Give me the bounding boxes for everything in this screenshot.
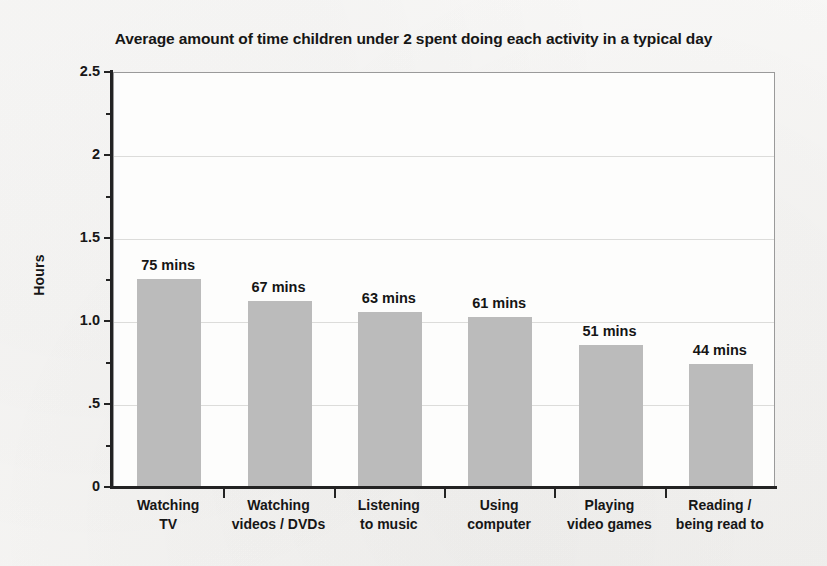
chart-title: Average amount of time children under 2 …	[0, 30, 827, 48]
bar-value-label: 61 mins	[439, 295, 559, 311]
gridline	[114, 322, 774, 323]
y-axis-tick	[104, 486, 113, 488]
x-axis-category-label-line: being read to	[665, 515, 775, 534]
x-axis-category-label-line: Watching	[113, 496, 223, 515]
bar	[358, 312, 422, 486]
x-axis-category-label-line: TV	[113, 515, 223, 534]
y-axis-tick	[106, 196, 113, 198]
y-axis-tick-label: 2.5	[48, 63, 100, 79]
bar-value-label: 67 mins	[219, 279, 339, 295]
gridline	[114, 156, 774, 157]
x-axis-category-label: Reading /being read to	[665, 496, 775, 534]
x-axis-category-label: Watchingvideos / DVDs	[223, 496, 333, 534]
x-axis-category-label-line: Listening	[334, 496, 444, 515]
y-axis-tick	[104, 237, 113, 239]
x-axis-tick	[554, 489, 556, 498]
bar-value-label: 51 mins	[550, 323, 670, 339]
x-axis-category-label: WatchingTV	[113, 496, 223, 534]
x-axis-category-label-line: Playing	[554, 496, 664, 515]
y-axis-tick-label: .5	[48, 395, 100, 411]
y-axis-labels: 2.521.51.0.50	[0, 0, 100, 566]
bar-value-label: 44 mins	[660, 342, 780, 358]
bar-value-label: 75 mins	[108, 257, 228, 273]
y-axis-tick	[104, 320, 113, 322]
y-axis-tick-label: 0	[48, 478, 100, 494]
y-axis-tick	[104, 154, 113, 156]
x-axis-category-labels: WatchingTVWatchingvideos / DVDsListening…	[113, 496, 775, 558]
y-axis-tick	[106, 362, 113, 364]
x-axis-tick	[665, 489, 667, 498]
x-axis-category-label: Usingcomputer	[444, 496, 554, 534]
y-axis-tick-label: 1.0	[48, 312, 100, 328]
x-axis-tick	[223, 489, 225, 498]
x-axis-category-label: Listeningto music	[334, 496, 444, 534]
gridline	[114, 73, 774, 74]
bar	[248, 301, 312, 486]
y-axis-tick	[106, 279, 113, 281]
x-axis-category-label-line: video games	[554, 515, 664, 534]
bar	[689, 364, 753, 486]
plot-area	[114, 73, 774, 486]
bar	[579, 345, 643, 486]
x-axis-category-label-line: Watching	[223, 496, 333, 515]
y-axis-tick-label: 1.5	[48, 229, 100, 245]
y-axis-tick-label: 2	[48, 146, 100, 162]
gridline	[114, 239, 774, 240]
x-axis-tick	[444, 489, 446, 498]
plot-frame	[113, 72, 775, 487]
bar	[137, 279, 201, 487]
bar-value-label: 63 mins	[329, 290, 449, 306]
x-axis-category-label-line: to music	[334, 515, 444, 534]
x-axis-category-label-line: videos / DVDs	[223, 515, 333, 534]
bar	[468, 317, 532, 486]
y-axis-tick	[106, 445, 113, 447]
y-axis-tick	[106, 113, 113, 115]
x-axis-tick	[334, 489, 336, 498]
x-axis-category-label-line: computer	[444, 515, 554, 534]
x-axis-category-label-line: Reading /	[665, 496, 775, 515]
y-axis-title: Hours	[31, 230, 47, 320]
x-axis-category-label: Playingvideo games	[554, 496, 664, 534]
x-axis-category-label-line: Using	[444, 496, 554, 515]
chart-figure: Average amount of time children under 2 …	[0, 0, 827, 566]
gridline	[114, 405, 774, 406]
y-axis-tick	[104, 71, 113, 73]
y-axis-tick	[104, 403, 113, 405]
